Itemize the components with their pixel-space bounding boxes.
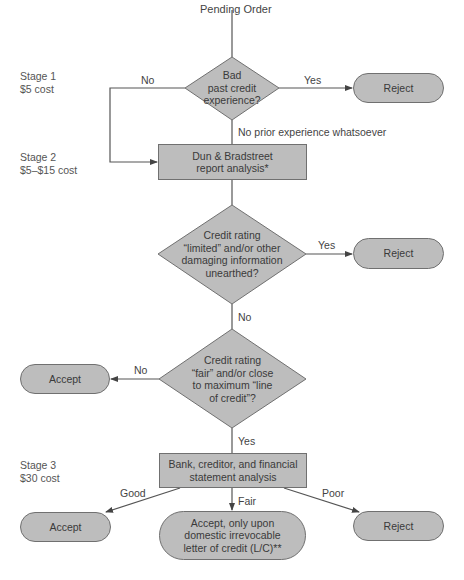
decision-bad-credit-text: Bad past credit experience? — [185, 62, 279, 114]
edge-label-d3-yes: Yes — [238, 435, 255, 447]
stage-2-label: Stage 2 $5–$15 cost — [20, 151, 77, 176]
edge-label-poor: Poor — [322, 487, 344, 499]
terminal-accept-1: Accept — [20, 364, 110, 394]
terminal-reject-2: Reject — [353, 238, 444, 269]
edge-label-good: Good — [120, 487, 146, 499]
terminal-reject-3: Reject — [353, 511, 444, 541]
process-bank-analysis: Bank, creditor, and financial statement … — [159, 453, 307, 488]
edge-label-d2-yes: Yes — [318, 239, 335, 251]
edge-label-d2-no: No — [238, 311, 251, 323]
edge-label-d1-none: No prior experience whatsoever — [238, 126, 386, 138]
terminal-accept-2: Accept — [20, 512, 111, 542]
decision-limited-rating-text: Credit rating “limited” and/or other dam… — [158, 222, 306, 286]
edge-label-d1-no: No — [141, 74, 154, 86]
start-label: Pending Order — [200, 3, 272, 15]
terminal-reject-1: Reject — [353, 73, 444, 103]
decision-fair-rating-text: Credit rating “fair” and/or close to max… — [159, 347, 306, 411]
process-dun-bradstreet: Dun & Bradstreet report analysis* — [158, 144, 307, 180]
edge-label-d1-yes: Yes — [304, 74, 321, 86]
stage-1-label: Stage 1 $5 cost — [20, 70, 56, 95]
stage-3-label: Stage 3 $30 cost — [20, 459, 60, 484]
edge-label-d3-no: No — [134, 364, 147, 376]
terminal-accept-lc: Accept, only upon domestic irrevocable l… — [159, 511, 306, 560]
edge-label-fair: Fair — [238, 495, 256, 507]
